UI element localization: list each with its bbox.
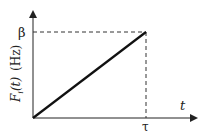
sweep-line bbox=[33, 32, 146, 118]
svg-text:Fi(t)(Hz): Fi(t)(Hz) bbox=[9, 45, 25, 103]
frequency-sweep-plot: β τ t Fi(t)(Hz) bbox=[0, 0, 204, 136]
x-tick-tau: τ bbox=[142, 120, 149, 134]
y-tick-beta: β bbox=[18, 25, 26, 40]
x-axis-label: t bbox=[180, 98, 186, 113]
y-axis-label: Fi(t)(Hz) bbox=[9, 45, 25, 103]
diagram: β τ t Fi(t)(Hz) bbox=[0, 0, 204, 136]
